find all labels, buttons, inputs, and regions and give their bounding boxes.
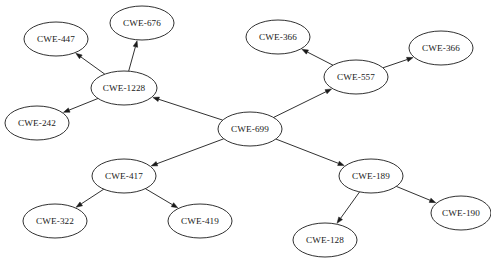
graph-node[interactable]: CWE-366 [246, 20, 310, 54]
node-label: CWE-189 [352, 171, 390, 181]
graph-node[interactable]: CWE-1228 [91, 71, 157, 105]
graph-node[interactable]: CWE-242 [5, 106, 69, 140]
node-label: CWE-190 [442, 208, 480, 218]
node-layer: CWE-447CWE-676CWE-1228CWE-242CWE-699CWE-… [5, 6, 491, 257]
node-label: CWE-699 [231, 124, 269, 134]
graph-edge [396, 186, 430, 200]
node-label: CWE-419 [181, 216, 219, 226]
graph-edge [307, 52, 333, 65]
graph-edge [276, 139, 339, 163]
graph-edge-arrowhead [153, 97, 160, 101]
node-label: CWE-366 [259, 32, 297, 42]
graph-edge-arrowhead [76, 53, 82, 58]
node-label: CWE-417 [105, 171, 143, 181]
graph-node[interactable]: CWE-189 [339, 159, 403, 193]
graph-edge-arrowhead [63, 108, 70, 112]
node-label: CWE-447 [37, 34, 75, 44]
graph-edge [159, 99, 223, 120]
graph-edge-arrowhead [151, 162, 158, 166]
node-label: CWE-128 [306, 235, 344, 245]
graph-edge [81, 189, 104, 204]
node-label: CWE-242 [18, 118, 56, 128]
graph-edge [69, 98, 98, 110]
node-label: CWE-322 [36, 216, 74, 226]
graph-edge [274, 92, 327, 118]
graph-edge-arrowhead [76, 202, 82, 207]
node-label: CWE-1228 [103, 83, 146, 93]
graph-edge [383, 60, 407, 68]
graph-edge [81, 57, 105, 74]
cwe-graph-diagram: CWE-447CWE-676CWE-1228CWE-242CWE-699CWE-… [0, 0, 491, 264]
graph-edge-arrowhead [338, 161, 345, 165]
graph-canvas: CWE-447CWE-676CWE-1228CWE-242CWE-699CWE-… [0, 0, 491, 264]
node-label: CWE-676 [123, 18, 161, 28]
graph-edge-arrowhead [171, 203, 178, 208]
graph-edge [157, 139, 224, 164]
graph-node[interactable]: CWE-699 [218, 112, 282, 146]
graph-edge-arrowhead [337, 217, 342, 223]
graph-edge-arrowhead [429, 198, 436, 202]
graph-edge-arrowhead [325, 89, 332, 94]
graph-edge [145, 189, 172, 205]
graph-node[interactable]: CWE-419 [168, 204, 232, 238]
node-label: CWE-557 [337, 72, 375, 82]
graph-node[interactable]: CWE-128 [293, 223, 357, 257]
graph-edge-arrowhead [133, 41, 137, 48]
graph-node[interactable]: CWE-447 [24, 22, 88, 56]
graph-node[interactable]: CWE-417 [92, 159, 156, 193]
graph-edge [341, 192, 360, 218]
graph-node[interactable]: CWE-366 [409, 31, 473, 65]
graph-node[interactable]: CWE-676 [110, 6, 174, 40]
graph-node[interactable]: CWE-322 [23, 204, 87, 238]
graph-node[interactable]: CWE-557 [324, 60, 388, 94]
graph-edge [129, 47, 136, 71]
graph-edge-arrowhead [407, 57, 414, 61]
node-label: CWE-366 [422, 43, 460, 53]
graph-edge-arrowhead [302, 49, 309, 54]
graph-node[interactable]: CWE-190 [431, 196, 491, 230]
